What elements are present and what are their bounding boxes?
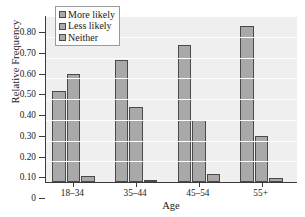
gridline [46, 141, 297, 142]
legend: More likely Less likely Neither [55, 6, 120, 46]
legend-swatch-icon [59, 23, 66, 30]
y-axis-tick-label: 0 [31, 193, 36, 203]
x-axis-title: Age [45, 200, 297, 211]
x-axis-tick-label: 55+ [253, 188, 268, 198]
bar [129, 107, 143, 182]
bar [207, 174, 221, 182]
y-axis: 00.100.200.300.400.500.600.700.80 [0, 16, 45, 184]
legend-item-label: Neither [68, 32, 98, 43]
bar [52, 91, 66, 182]
x-axis-tick [262, 182, 263, 187]
bar [192, 120, 206, 182]
y-axis-tick-label: 0.20 [20, 152, 36, 162]
y-axis-tick [39, 198, 45, 199]
bar [269, 178, 283, 182]
y-axis-tick-label: 0.10 [20, 172, 36, 182]
bar-chart: Relative Frequency 00.100.200.300.400.50… [0, 0, 305, 217]
x-axis-tick-label: 18–34 [61, 188, 84, 198]
bar [67, 74, 81, 182]
legend-swatch-icon [59, 34, 66, 41]
bar [81, 176, 95, 182]
legend-item: More likely [59, 9, 115, 20]
gridline [46, 99, 297, 100]
bar [240, 26, 254, 182]
gridline [46, 58, 297, 59]
gridline [46, 161, 297, 162]
legend-item-label: More likely [68, 9, 115, 20]
y-axis-tick-label: 0.80 [20, 27, 36, 37]
x-axis-tick-label: 35–44 [124, 188, 147, 198]
legend-item: Neither [59, 32, 115, 43]
x-axis-tick [199, 182, 200, 187]
bar [144, 180, 158, 182]
y-axis-tick-label: 0.60 [20, 69, 36, 79]
x-axis-tick [136, 182, 137, 187]
y-axis-tick-label: 0.50 [20, 89, 36, 99]
y-axis-tick-label: 0.70 [20, 48, 36, 58]
legend-swatch-icon [59, 11, 66, 18]
legend-item: Less likely [59, 20, 115, 31]
x-axis-tick-label: 45–54 [186, 188, 209, 198]
y-axis-tick-label: 0.30 [20, 131, 36, 141]
gridline [46, 120, 297, 121]
bar [255, 136, 269, 182]
gridline [46, 78, 297, 79]
x-axis-tick [73, 182, 74, 187]
legend-item-label: Less likely [68, 20, 112, 31]
y-axis-tick-label: 0.40 [20, 110, 36, 120]
